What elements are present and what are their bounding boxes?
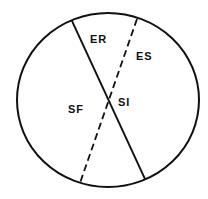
label-er: ER [90, 33, 107, 45]
label-si: SI [118, 96, 130, 108]
quadrant-circle-diagram: ER ES SF SI [0, 0, 208, 199]
solid-axis-line [72, 21, 145, 179]
diagram-canvas: ER ES SF SI [0, 0, 208, 199]
label-es: ES [136, 50, 153, 62]
label-sf: SF [68, 103, 84, 115]
